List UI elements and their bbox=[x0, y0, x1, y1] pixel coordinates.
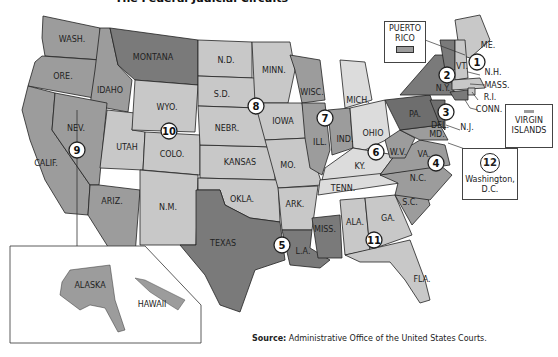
state-ariz bbox=[88, 185, 140, 255]
label-kansas: KANSAS bbox=[224, 158, 256, 167]
virgin-islands-callout: VIRGIN ISLANDS bbox=[505, 104, 553, 148]
virgin-islands-shape-icon bbox=[524, 110, 534, 113]
state-conn bbox=[450, 90, 468, 100]
circuit-8: 8 bbox=[253, 101, 260, 112]
label-md: MD. bbox=[429, 130, 445, 139]
label-vt: VT. bbox=[456, 62, 468, 71]
circuit-11: 11 bbox=[367, 235, 381, 246]
label-nm: N.M. bbox=[159, 203, 177, 212]
label-colo: COLO. bbox=[160, 150, 185, 159]
label-ky: KY. bbox=[355, 162, 366, 171]
label-utah: UTAH bbox=[116, 143, 138, 152]
label-conn: CONN. bbox=[476, 105, 502, 114]
label-mich: MICH. bbox=[346, 96, 369, 105]
label-ill: ILL. bbox=[313, 138, 327, 147]
label-fla: FLA. bbox=[413, 275, 430, 284]
circuit-12: 12 bbox=[480, 153, 500, 173]
label-ga: GA. bbox=[381, 214, 395, 223]
washington-dc-callout: 12 Washington, D.C. bbox=[462, 148, 518, 200]
label-va: VA. bbox=[418, 150, 431, 159]
label-nj: N.J. bbox=[460, 123, 473, 132]
puerto-rico-label: PUERTO RICO bbox=[385, 24, 425, 44]
label-ind: IND. bbox=[336, 135, 353, 144]
label-alaska: ALASKA bbox=[74, 281, 106, 290]
label-ny: N.Y. bbox=[436, 84, 450, 93]
label-nebr: NEBR. bbox=[215, 124, 239, 133]
label-wv: W.V. bbox=[390, 148, 407, 157]
label-montana: MONTANA bbox=[133, 53, 174, 62]
circuit-3: 3 bbox=[443, 107, 450, 118]
label-okla: OKLA. bbox=[230, 195, 254, 204]
label-wash: WASH. bbox=[59, 35, 85, 44]
puerto-rico-shape-icon bbox=[396, 46, 414, 53]
circuit-7: 7 bbox=[322, 113, 329, 124]
label-ark: ARK. bbox=[286, 200, 305, 209]
circuit-1: 1 bbox=[474, 57, 481, 68]
circuit-9: 9 bbox=[74, 145, 81, 156]
label-wisc: WISC. bbox=[300, 88, 323, 97]
label-tenn: TENN. bbox=[330, 184, 355, 193]
label-ala: ALA. bbox=[346, 218, 364, 227]
label-wyo: WYO. bbox=[157, 103, 178, 112]
label-minn: MINN. bbox=[262, 66, 286, 75]
washington-dc-label: Washington, D.C. bbox=[463, 175, 517, 195]
puerto-rico-callout: PUERTO RICO bbox=[384, 21, 426, 63]
source-label: Source: bbox=[252, 334, 286, 343]
label-texas: TEXAS bbox=[209, 239, 236, 248]
label-hawaii: HAWAII bbox=[138, 300, 167, 309]
label-calif: CALIF. bbox=[34, 159, 58, 168]
label-mo: MO. bbox=[280, 161, 295, 170]
label-sd: S.D. bbox=[214, 90, 230, 99]
label-iowa: IOWA bbox=[272, 117, 294, 126]
label-ariz: ARIZ. bbox=[101, 197, 122, 206]
label-ri: R.I. bbox=[484, 93, 497, 102]
source-text: Administrative Office of the United Stat… bbox=[289, 334, 487, 343]
label-pa: PA. bbox=[409, 110, 421, 119]
label-ore: ORE. bbox=[53, 72, 72, 81]
label-nh: N.H. bbox=[485, 68, 502, 77]
label-ohio: OHIO bbox=[363, 129, 384, 138]
state-ri bbox=[468, 88, 475, 95]
virgin-islands-label: VIRGIN ISLANDS bbox=[506, 116, 552, 136]
label-la: L.A. bbox=[296, 247, 311, 256]
state-ohio bbox=[350, 100, 390, 150]
label-nev: NEV. bbox=[67, 124, 85, 133]
circuit-2: 2 bbox=[444, 70, 451, 81]
circuit-6: 6 bbox=[373, 147, 380, 158]
label-idaho: IDAHO bbox=[97, 86, 123, 95]
label-mass: MASS. bbox=[484, 81, 509, 90]
circuit-4: 4 bbox=[433, 158, 440, 169]
circuit-10: 10 bbox=[162, 126, 176, 137]
label-me: ME. bbox=[481, 41, 496, 50]
source-caption: Source: Administrative Office of the Uni… bbox=[252, 334, 487, 343]
circuit-5: 5 bbox=[279, 240, 286, 251]
label-sc: S.C. bbox=[402, 198, 418, 207]
label-nd: N.D. bbox=[217, 56, 234, 65]
label-miss: MISS. bbox=[314, 225, 336, 234]
label-nc: N.C. bbox=[410, 174, 427, 183]
